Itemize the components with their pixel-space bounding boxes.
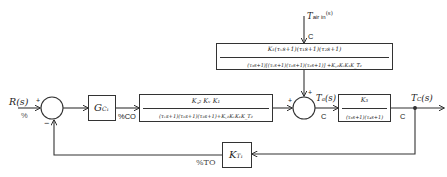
sj2-plus-left-sign: + (288, 97, 292, 104)
wire-feedback-to-sj1 (54, 120, 222, 155)
controller-output-unit: %CO (118, 112, 136, 121)
inner-loop-numerator: K꜀₂ Kᵥ K₁ (140, 96, 272, 105)
summing-junction-2 (293, 97, 315, 119)
disturbance-label: Tair in(s) (307, 10, 333, 21)
transmitter-block[interactable]: KT₁ (222, 142, 252, 168)
process-block[interactable]: K₃ (τ₃s+1)(τ₄s+1) (338, 94, 391, 122)
disturbance-unit: C (308, 32, 313, 41)
inner-loop-denominator: (τᵥs+1)(τ₁s+1)(τ₂s+1)+K꜀₂KᵥK₁K_T₂ (140, 112, 272, 120)
ta-label: Ta(s) (316, 93, 336, 103)
fraction-bar (342, 108, 387, 109)
sj2-plus-top-sign: + (308, 89, 312, 96)
transmitter-label: KT₁ (229, 149, 243, 160)
controller-label: GC₁ (94, 102, 109, 113)
process-numerator: K₃ (339, 96, 390, 104)
sj1-minus-sign: − (44, 118, 49, 128)
fraction-bar (220, 57, 389, 58)
disturbance-numerator: K₁(τᵥs+1)(τ₁s+1)(τ₂s+1) (217, 45, 392, 52)
output-label: TC(s) (411, 93, 433, 103)
transmitter-output-unit: %TO (196, 158, 216, 167)
controller-block[interactable]: GC₁ (88, 95, 116, 121)
inner-loop-block[interactable]: K꜀₂ Kᵥ K₁ (τᵥs+1)(τ₁s+1)(τ₂s+1)+K꜀₂KᵥK₁K… (139, 94, 273, 122)
fraction-bar (143, 108, 269, 109)
setpoint-label: R(s) (9, 96, 28, 107)
setpoint-unit: % (21, 111, 28, 120)
ta-unit: C (321, 112, 326, 121)
output-unit: C (400, 112, 405, 121)
summing-junction-1 (41, 97, 63, 119)
sj1-plus-sign: + (36, 97, 40, 104)
disturbance-block[interactable]: K₁(τᵥs+1)(τ₁s+1)(τ₂s+1) (τ₃s+1)[(τᵥs+1)(… (216, 43, 393, 70)
process-denominator: (τ₃s+1)(τ₄s+1) (339, 114, 390, 120)
disturbance-denominator: (τ₃s+1)[(τᵥs+1)(τ₁s+1)(τ₂s+1)] +K꜀₂KᵥK₁K… (217, 62, 392, 68)
